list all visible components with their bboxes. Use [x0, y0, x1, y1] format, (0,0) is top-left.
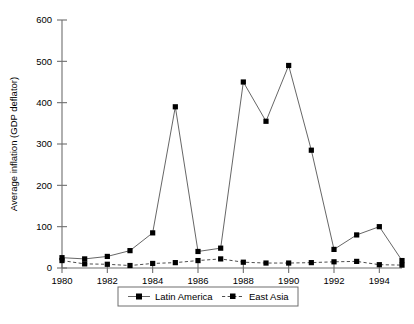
data-point-marker	[241, 260, 246, 265]
data-point-marker	[82, 261, 87, 266]
y-tick-label: 500	[36, 56, 52, 67]
data-point-marker	[127, 263, 132, 268]
chart-legend: Latin America East Asia	[118, 287, 298, 306]
legend-swatch-marker-latin-america	[136, 294, 142, 300]
data-point-marker	[286, 63, 291, 68]
data-point-marker	[218, 246, 223, 251]
data-point-marker	[309, 260, 314, 265]
data-point-marker	[173, 260, 178, 265]
data-point-marker	[105, 262, 110, 267]
y-tick-label: 400	[36, 97, 52, 108]
data-point-marker	[59, 258, 64, 263]
x-tick-label: 1984	[142, 275, 163, 286]
data-point-marker	[263, 260, 268, 265]
series-latin-america	[59, 63, 404, 263]
data-point-marker	[195, 258, 200, 263]
legend-label-latin-america: Latin America	[155, 291, 213, 302]
data-point-marker	[173, 104, 178, 109]
data-point-marker	[218, 256, 223, 261]
x-tick-label: 1994	[369, 275, 390, 286]
y-tick-label: 300	[36, 138, 52, 149]
data-point-marker	[399, 258, 404, 263]
x-tick-label: 1980	[51, 275, 72, 286]
x-tick-label: 1986	[187, 275, 208, 286]
data-point-marker	[286, 260, 291, 265]
x-axis-ticks: 19801982198419861988199019921994	[51, 263, 389, 286]
data-point-marker	[331, 247, 336, 252]
chart-figure: 0100200300400500600 19801982198419861988…	[0, 0, 414, 324]
data-point-marker	[377, 224, 382, 229]
y-tick-label: 200	[36, 180, 52, 191]
data-point-marker	[127, 248, 132, 253]
x-tick-label: 1992	[323, 275, 344, 286]
data-point-marker	[82, 256, 87, 261]
series-line	[62, 65, 402, 260]
line-chart: 0100200300400500600 19801982198419861988…	[0, 0, 414, 324]
series-line	[62, 259, 402, 266]
data-point-marker	[150, 261, 155, 266]
data-point-marker	[241, 79, 246, 84]
y-tick-label: 100	[36, 221, 52, 232]
y-tick-label: 0	[47, 262, 52, 273]
series-layer	[59, 63, 404, 268]
data-point-marker	[377, 262, 382, 267]
legend-label-east-asia: East Asia	[249, 291, 289, 302]
data-point-marker	[309, 148, 314, 153]
data-point-marker	[263, 119, 268, 124]
y-axis-title: Average inflation (GDP deflator)	[8, 77, 19, 211]
data-point-marker	[354, 259, 359, 264]
data-point-marker	[331, 259, 336, 264]
data-point-marker	[150, 230, 155, 235]
x-tick-label: 1988	[233, 275, 254, 286]
y-tick-label: 600	[36, 14, 52, 25]
x-tick-label: 1982	[97, 275, 118, 286]
data-point-marker	[399, 263, 404, 268]
data-point-marker	[105, 254, 110, 259]
legend-swatch-marker-east-asia	[230, 294, 236, 300]
series-east-asia	[59, 256, 404, 268]
data-point-marker	[195, 249, 200, 254]
x-tick-label: 1990	[278, 275, 299, 286]
data-point-marker	[354, 232, 359, 237]
